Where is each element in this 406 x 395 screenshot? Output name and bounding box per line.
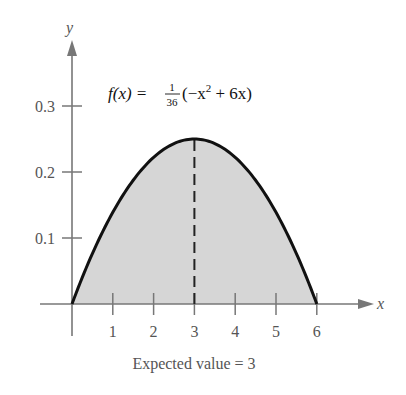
- formula-frac-num: 1: [169, 81, 175, 93]
- chart-canvas: 123456 0.10.20.3 y x f(x) = 1 36 (−x2 + …: [0, 0, 406, 395]
- x-tick-label: 3: [190, 323, 198, 340]
- y-tick-label: 0.2: [35, 164, 55, 181]
- x-axis-label: x: [376, 295, 384, 312]
- formula-rhs-close: + 6x): [211, 84, 252, 103]
- x-tick-label: 4: [231, 323, 239, 340]
- y-tick-label: 0.1: [35, 230, 55, 247]
- x-tick-label: 1: [109, 323, 117, 340]
- y-ticks: 0.10.20.3: [35, 98, 82, 247]
- y-axis-arrow-icon: [67, 40, 77, 56]
- x-axis-arrow-icon: [358, 299, 374, 309]
- x-tick-label: 6: [313, 323, 321, 340]
- formula-lhs: f(x) =: [108, 84, 147, 103]
- formula-frac-den: 36: [167, 96, 179, 108]
- x-tick-label: 5: [272, 323, 280, 340]
- svg-text:f(x) =: f(x) =: [108, 84, 147, 103]
- formula-rhs-open: (−x: [182, 84, 206, 103]
- y-tick-label: 0.3: [35, 98, 55, 115]
- y-axis-label: y: [64, 19, 74, 37]
- x-tick-label: 2: [150, 323, 158, 340]
- expected-value-caption: Expected value = 3: [132, 355, 255, 373]
- function-label: f(x) = 1 36 (−x2 + 6x): [108, 81, 252, 108]
- svg-text:(−x2 + 6x): (−x2 + 6x): [182, 82, 252, 103]
